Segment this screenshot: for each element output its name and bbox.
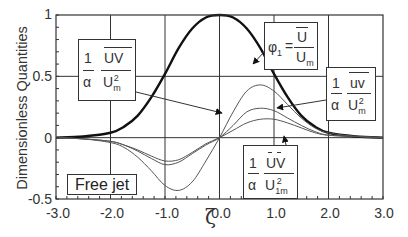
numerator-UV: UV — [104, 50, 123, 66]
alpha-symbol: α — [248, 177, 256, 193]
frac-one: 1 — [84, 50, 92, 66]
y-tick-1: 1 — [12, 6, 52, 22]
y-tick-0: 0 — [12, 130, 52, 146]
phi-symbol: φ1 — [268, 39, 282, 55]
equals-sign: = — [285, 38, 293, 54]
legend-box-UV-mean: 1 α UV Um2 — [78, 39, 136, 101]
legend-box-UV-U1m: 1 α UV U1m2 — [243, 145, 298, 199]
denominator-Um: Um — [296, 49, 314, 65]
legend-box-uv: 1 α uv Um2 — [326, 67, 376, 121]
free-jet-label: Free jet — [67, 174, 137, 195]
denominator-Um2: Um2 — [103, 74, 119, 90]
denominator-U1m2: U1m2 — [265, 177, 282, 193]
frac-one: 1 — [249, 155, 257, 171]
numerator-U: U — [297, 29, 307, 45]
frac-one: 1 — [332, 75, 340, 91]
y-tick-0.5: 0.5 — [12, 68, 52, 84]
x-tick-neg1: -1.0 — [155, 205, 179, 221]
x-tick-1: 1.0 — [266, 205, 285, 221]
x-axis-label: ζ — [205, 205, 216, 229]
x-tick-3: 3.0 — [374, 205, 393, 221]
alpha-symbol: α — [83, 74, 91, 90]
numerator-uv: uv — [350, 75, 365, 91]
y-axis-label: Dimensionless Quantities — [14, 26, 30, 190]
x-tick-neg3: -3.0 — [46, 205, 70, 221]
denominator-Um2: Um2 — [348, 97, 364, 113]
alpha-symbol: α — [331, 97, 339, 113]
numerator-UV-bar: UV — [266, 155, 285, 171]
x-tick-neg2: -2.0 — [100, 205, 124, 221]
x-tick-2: 2.0 — [320, 205, 339, 221]
legend-box-phi1: φ1 = U Um — [264, 22, 318, 70]
